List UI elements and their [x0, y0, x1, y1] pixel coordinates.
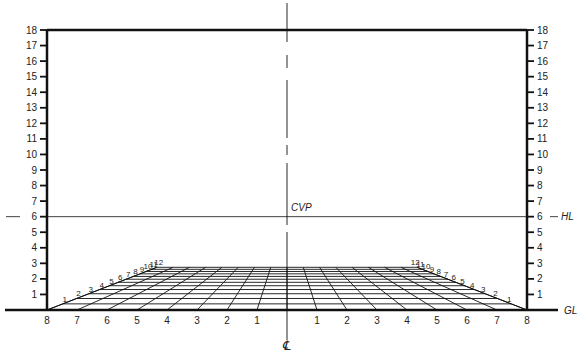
depth-number-right: 6 [452, 273, 457, 282]
left-scale-label: 14 [26, 87, 38, 98]
ground-number-right: 4 [404, 315, 410, 326]
depth-number-left: 7 [126, 270, 131, 279]
right-scale-label: 4 [537, 242, 543, 253]
ground-number-right: 7 [494, 315, 500, 326]
ground-number-right: 3 [374, 315, 380, 326]
left-scale-label: 16 [26, 56, 38, 67]
ground-number-left: 5 [134, 315, 140, 326]
ground-number-left: 4 [164, 315, 170, 326]
right-scale-label: 2 [537, 273, 543, 284]
perspective-diagram: 8765432112345678112233445566778899101011… [0, 0, 588, 361]
ground-number-left: 7 [74, 315, 80, 326]
right-scale-label: 18 [537, 25, 549, 36]
depth-number-right: 5 [460, 277, 465, 286]
left-scale-label: 18 [26, 25, 38, 36]
depth-number-right: 3 [481, 285, 486, 294]
ground-number-right: 8 [524, 315, 530, 326]
hl-label: HL [561, 211, 574, 222]
right-scale-label: 12 [537, 118, 549, 129]
ground-number-right: 6 [464, 315, 470, 326]
depth-number-right: 12 [411, 258, 420, 267]
left-scale-label: 1 [31, 289, 37, 300]
depth-number-left: 6 [118, 273, 123, 282]
depth-number-left: 12 [154, 258, 163, 267]
ground-number-right: 5 [434, 315, 440, 326]
right-scale-label: 11 [537, 133, 548, 144]
left-scale-label: 2 [31, 273, 37, 284]
left-scale-label: 9 [31, 165, 37, 176]
right-scale-label: 14 [537, 87, 549, 98]
right-scale-label: 6 [537, 211, 543, 222]
depth-number-left: 5 [109, 277, 114, 286]
right-scale-label: 1 [537, 289, 543, 300]
right-scale-label: 17 [537, 40, 549, 51]
depth-number-left: 4 [99, 281, 104, 290]
depth-number-right: 4 [470, 281, 475, 290]
centerline-symbol: ℄ [282, 338, 291, 353]
left-scale-label: 8 [31, 180, 37, 191]
right-scale-label: 5 [537, 227, 543, 238]
depth-number-right: 1 [507, 295, 512, 304]
depth-number-right: 8 [436, 267, 441, 276]
ground-number-left: 1 [254, 315, 260, 326]
depth-number-right: 9 [430, 265, 435, 274]
right-scale-label: 16 [537, 56, 549, 67]
left-scale-label: 13 [26, 102, 38, 113]
left-scale-label: 4 [31, 242, 37, 253]
left-scale-label: 6 [31, 211, 37, 222]
depth-number-left: 3 [89, 285, 94, 294]
ground-number-left: 2 [224, 315, 230, 326]
left-scale-label: 10 [26, 149, 38, 160]
left-scale-label: 3 [31, 258, 37, 269]
left-scale-label: 15 [26, 71, 38, 82]
gl-label: GL [564, 305, 577, 316]
ground-number-right: 1 [314, 315, 320, 326]
right-scale-label: 13 [537, 102, 549, 113]
left-scale-label: 5 [31, 227, 37, 238]
cvp-label: CVP [291, 202, 312, 213]
ground-number-left: 3 [194, 315, 200, 326]
ground-number-left: 8 [44, 315, 50, 326]
right-scale-label: 8 [537, 180, 543, 191]
ground-number-right: 2 [344, 315, 350, 326]
left-scale-label: 12 [26, 118, 38, 129]
right-scale-label: 9 [537, 165, 543, 176]
ground-number-left: 6 [104, 315, 110, 326]
depth-number-left: 1 [63, 295, 68, 304]
left-scale-label: 17 [26, 40, 38, 51]
depth-number-left: 8 [133, 267, 138, 276]
depth-number-right: 7 [444, 270, 449, 279]
right-scale-label: 7 [537, 196, 543, 207]
right-scale-label: 10 [537, 149, 549, 160]
depth-number-left: 2 [76, 289, 81, 298]
depth-number-right: 2 [493, 289, 498, 298]
right-scale-label: 3 [537, 258, 543, 269]
right-scale-label: 15 [537, 71, 549, 82]
left-scale-label: 11 [27, 133, 38, 144]
left-scale-label: 7 [31, 196, 37, 207]
